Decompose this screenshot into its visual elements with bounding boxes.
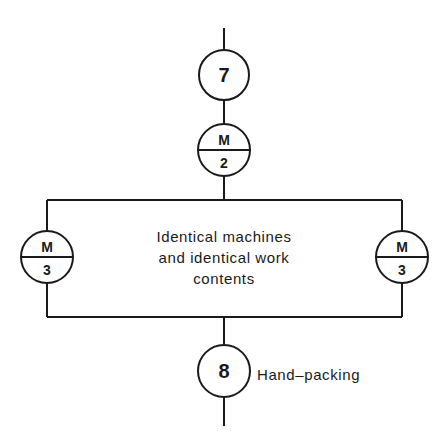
operation-8-node: 8	[198, 345, 250, 397]
machine-letter: M	[218, 132, 230, 148]
machine-number: 2	[220, 155, 228, 171]
operation-number: 7	[218, 64, 229, 86]
label-line-1: Identical machines	[156, 228, 291, 245]
operation-7-node: 7	[199, 50, 249, 100]
machine-2-node: M 2	[198, 124, 250, 176]
flow-diagram: 7 M 2 M 3 M 3 Identical machines and ide…	[0, 0, 447, 443]
machine-number: 3	[43, 262, 51, 278]
machine-letter: M	[41, 239, 53, 255]
machine-3-left-node: M 3	[21, 231, 73, 283]
hand-packing-label: Hand–packing	[257, 366, 360, 383]
parallel-box-label: Identical machines and identical work co…	[156, 228, 291, 287]
machine-3-right-node: M 3	[376, 231, 428, 283]
machine-letter: M	[396, 239, 408, 255]
label-line-3: contents	[193, 270, 255, 287]
operation-number: 8	[218, 360, 229, 382]
machine-number: 3	[398, 262, 406, 278]
label-line-2: and identical work	[159, 249, 290, 266]
